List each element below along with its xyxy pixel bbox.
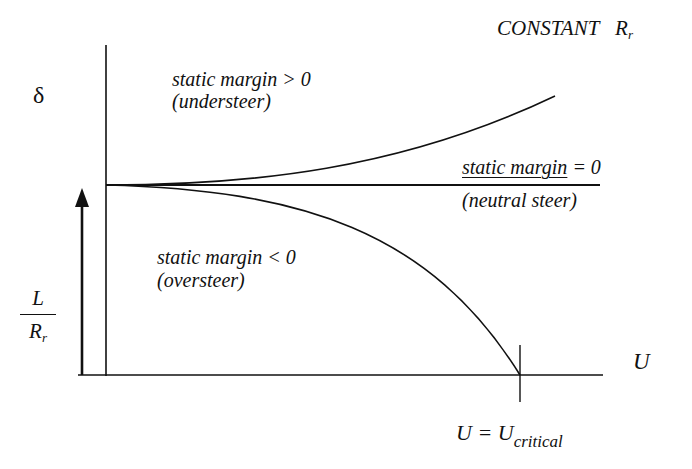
chart-title-subscript: r [628,27,633,42]
chart-title-symbol: R [615,16,628,40]
chart-title-text: CONSTANT [497,16,599,40]
y-axis-label: δ [33,84,44,106]
neutral-label-line2: (neutral steer) [462,189,577,211]
arrow-up-icon [75,188,89,207]
understeer-label-line2: (understeer) [172,90,271,112]
oversteer-label-line1: static margin < 0 [157,246,296,268]
fraction-bar [20,314,56,315]
critical-speed-lhs: U = U [456,420,514,445]
understeer-label-line1: static margin > 0 [172,68,311,90]
critical-speed-label: U = Ucritical [456,422,563,453]
oversteer-label-line2: (oversteer) [157,269,245,291]
neutral-label-underlined: static margin [462,156,567,178]
fraction-numerator: L [18,286,58,310]
critical-speed-subscript: critical [514,432,563,451]
x-axis-label: U [633,351,650,373]
reference-fraction-label: L Rr [18,286,58,350]
neutral-label-rest: = 0 [567,156,601,178]
neutral-label-line1: static margin = 0 [462,156,601,178]
chart-title: CONSTANT Rr [497,17,633,46]
fraction-denominator-subscript: r [42,330,47,345]
diagram-plot [0,0,692,469]
fraction-denominator-symbol: R [29,319,42,343]
fraction-denominator: Rr [18,319,58,350]
